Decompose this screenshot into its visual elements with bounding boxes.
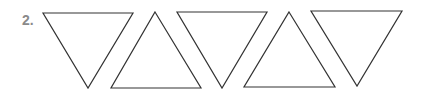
triangle-down-5 bbox=[311, 11, 402, 86]
triangle-down-1 bbox=[43, 13, 133, 88]
triangle-up-2 bbox=[111, 12, 201, 88]
triangle-up-4 bbox=[244, 12, 335, 87]
triangle-down-3 bbox=[177, 12, 267, 88]
triangle-row bbox=[0, 0, 427, 107]
